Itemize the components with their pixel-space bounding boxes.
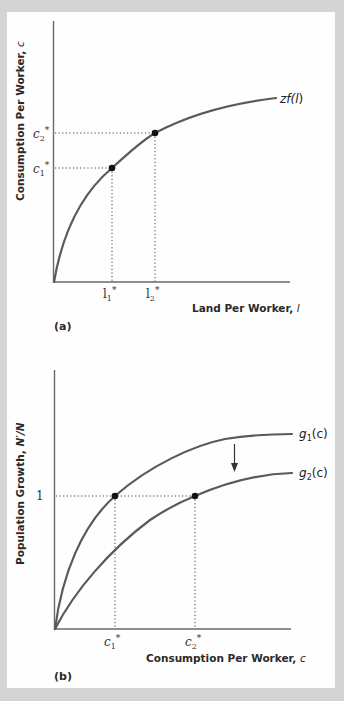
shift-down-arrow-icon — [231, 444, 238, 472]
ytick-c2-star: c2* — [33, 125, 50, 143]
curve-zf-l — [54, 98, 276, 282]
ytick-1: 1 — [36, 489, 44, 503]
chart-a-tag: (a) — [54, 320, 71, 333]
chart-b: g1(c) g2(c) 1 c1* c2* Consumption Per Wo… — [14, 370, 328, 683]
curve-label-g1-c: g1(c) — [299, 427, 328, 443]
chart-a-guide-point1 — [55, 168, 112, 282]
curve-g1-c — [55, 434, 292, 629]
chart-a-axes — [54, 21, 291, 282]
chart-b-tag: (b) — [54, 670, 72, 683]
curve-g2-c — [55, 473, 292, 629]
xtick-c1-star: c1* — [104, 633, 121, 651]
chart-a-point-1 — [109, 165, 116, 172]
curve-label-g2-c: g2(c) — [299, 466, 328, 482]
chart-a-ylabel: Consumption Per Worker, c — [14, 41, 26, 201]
chart-b-xlabel: Consumption Per Worker, c — [146, 652, 306, 664]
ytick-c1-star: c1* — [33, 160, 50, 178]
chart-b-ylabel: Population Growth, N′/N — [14, 422, 26, 565]
chart-b-point-c1 — [112, 493, 119, 500]
chart-a: zf(l) c2* c1* l1* l2* Land Per Worker, l… — [14, 21, 303, 333]
chart-a-xlabel: Land Per Worker, l — [192, 302, 300, 314]
chart-b-axes — [55, 370, 292, 629]
xtick-l2-star: l2* — [146, 285, 160, 303]
curve-label-zf-l: zf(l) — [279, 92, 303, 106]
xtick-l1-star: l1* — [103, 285, 117, 303]
chart-a-guide-point2 — [55, 133, 155, 282]
xtick-c2-star: c2* — [185, 633, 202, 651]
figure-svg: zf(l) c2* c1* l1* l2* Land Per Worker, l… — [0, 0, 344, 701]
chart-b-point-c2 — [192, 493, 199, 500]
chart-a-point-2 — [152, 130, 159, 137]
